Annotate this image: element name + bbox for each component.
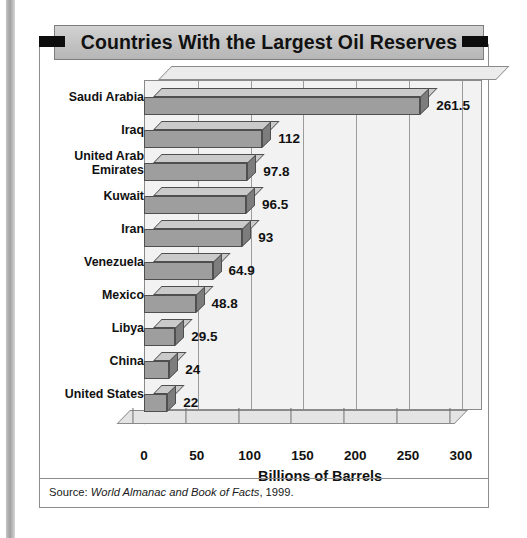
x-axis-title: Billions of Barrels xyxy=(144,468,496,484)
chart-title-banner: Countries With the Largest Oil Reserves xyxy=(54,25,484,60)
x-tick-200: 200 xyxy=(344,448,367,463)
banner-tab-left-icon xyxy=(39,36,65,47)
x-tick-150: 150 xyxy=(291,448,314,463)
y-axis-label-saudi-arabia: Saudi Arabia xyxy=(39,91,144,105)
y-axis-label-iran: Iran xyxy=(39,223,144,237)
source-note: Source: World Almanac and Book of Facts,… xyxy=(49,486,294,498)
y-axis-category-labels: Saudi ArabiaIraqUnited ArabEmiratesKuwai… xyxy=(39,44,144,444)
floor-tick-100 xyxy=(238,408,239,423)
x-tick-300: 300 xyxy=(450,448,473,463)
gridline-300 xyxy=(462,81,463,409)
plot-box-3d xyxy=(144,66,496,444)
source-suffix: , 1999. xyxy=(259,486,293,498)
plot-ceiling xyxy=(158,66,510,80)
y-axis-label-kuwait: Kuwait xyxy=(39,190,144,204)
source-prefix: Source: xyxy=(49,486,91,498)
floor-tick-250 xyxy=(397,408,398,423)
y-axis-label-united-states: United States xyxy=(39,388,144,402)
y-axis-label-venezuela: Venezuela xyxy=(39,256,144,270)
plot-back-wall xyxy=(144,80,482,410)
floor-tick-150 xyxy=(291,408,292,423)
floor-tick-0 xyxy=(132,408,133,423)
y-axis-label-iraq: Iraq xyxy=(39,124,144,138)
chart-area: Saudi ArabiaIraqUnited ArabEmiratesKuwai… xyxy=(39,44,489,464)
plot-floor xyxy=(116,410,468,424)
banner-tab-right-icon xyxy=(462,36,488,47)
floor-tick-50 xyxy=(185,408,186,423)
y-axis-label-china: China xyxy=(39,355,144,369)
gridline-200 xyxy=(356,81,357,409)
x-tick-100: 100 xyxy=(238,448,261,463)
source-publication: World Almanac and Book of Facts xyxy=(91,486,260,498)
page-gutter xyxy=(6,0,15,538)
y-axis-label-mexico: Mexico xyxy=(39,289,144,303)
gridline-250 xyxy=(409,81,410,409)
y-axis-label-united-arab-emirates: United ArabEmirates xyxy=(39,150,144,177)
gridline-100 xyxy=(251,81,252,409)
source-divider xyxy=(40,478,488,479)
gridline-150 xyxy=(303,81,304,409)
gridline-50 xyxy=(198,81,199,409)
y-axis-label-libya: Libya xyxy=(39,322,144,336)
x-tick-50: 50 xyxy=(189,448,204,463)
x-axis-tick-labels: 050100150200250300 xyxy=(144,448,496,466)
x-tick-250: 250 xyxy=(397,448,420,463)
x-tick-0: 0 xyxy=(140,448,148,463)
chart-title: Countries With the Largest Oil Reserves xyxy=(81,31,458,54)
floor-tick-300 xyxy=(449,408,450,423)
floor-tick-200 xyxy=(344,408,345,423)
